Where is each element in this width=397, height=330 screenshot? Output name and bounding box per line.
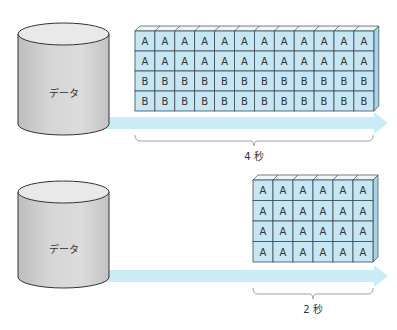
data-block-label: A <box>280 226 287 237</box>
data-block-label: A <box>281 36 288 47</box>
data-block-label: A <box>340 247 347 258</box>
data-block-label: A <box>341 56 348 67</box>
data-block-label: A <box>161 36 168 47</box>
data-block-label: A <box>360 247 367 258</box>
data-block-label: B <box>201 76 208 87</box>
panel-bottom: データ AAAAAAAAAAAAAAAAAAAAAAAA 2 秒 <box>18 175 388 315</box>
data-block-label: A <box>201 56 208 67</box>
data-block-label: B <box>341 76 348 87</box>
data-block-label: A <box>241 36 248 47</box>
data-block-label: A <box>320 206 327 217</box>
data-block-label: A <box>340 185 347 196</box>
data-block-label: A <box>300 226 307 237</box>
data-block-label: B <box>221 76 228 87</box>
data-block-grid: AAAAAAAAAAAAAAAAAAAAAAAABBBBBBBBBBBBBBBB… <box>135 26 379 111</box>
database-cylinder: データ <box>18 23 109 135</box>
data-block-label: A <box>341 36 348 47</box>
data-block-label: B <box>360 96 367 107</box>
data-block-label: A <box>161 56 168 67</box>
data-block-label: A <box>281 56 288 67</box>
duration-bracket <box>253 288 373 299</box>
data-block-label: B <box>341 96 348 107</box>
data-block-label: A <box>360 206 367 217</box>
data-block-label: B <box>221 96 228 107</box>
data-block-label: B <box>321 76 328 87</box>
data-block-label: A <box>321 56 328 67</box>
data-block-grid: AAAAAAAAAAAAAAAAAAAAAAAA <box>253 175 378 262</box>
cylinder-label: データ <box>49 243 79 255</box>
data-block-label: A <box>181 36 188 47</box>
data-transfer-diagram: データ AAAAAAAAAAAAAAAAAAAAAAAABBBBBBBBBBBB… <box>0 0 397 330</box>
data-block-label: A <box>300 185 307 196</box>
data-block-label: A <box>301 36 308 47</box>
data-block-label: A <box>260 185 267 196</box>
data-block-label: B <box>241 76 248 87</box>
cylinder-label: データ <box>49 87 79 99</box>
data-block-label: B <box>161 96 168 107</box>
data-block-label: A <box>142 36 149 47</box>
data-block-label: B <box>321 96 328 107</box>
duration-bracket <box>135 135 373 146</box>
data-block-label: A <box>320 185 327 196</box>
database-cylinder: データ <box>18 181 109 288</box>
data-block-label: A <box>340 206 347 217</box>
data-block-label: A <box>221 36 228 47</box>
data-block-label: A <box>301 56 308 67</box>
data-block-label: A <box>360 185 367 196</box>
data-block-label: A <box>321 36 328 47</box>
data-block-label: A <box>241 56 248 67</box>
data-block-label: B <box>281 76 288 87</box>
data-block-label: B <box>301 96 308 107</box>
data-block-label: B <box>281 96 288 107</box>
data-block-label: A <box>261 36 268 47</box>
data-block-label: B <box>261 76 268 87</box>
data-block-label: A <box>320 247 327 258</box>
data-block-label: A <box>142 56 149 67</box>
data-block-label: B <box>142 96 149 107</box>
data-block-label: B <box>241 96 248 107</box>
data-block-label: A <box>201 36 208 47</box>
data-block-label: B <box>201 96 208 107</box>
data-block-label: A <box>280 185 287 196</box>
data-block-label: A <box>340 226 347 237</box>
data-block-label: A <box>360 226 367 237</box>
data-block-label: A <box>260 247 267 258</box>
duration-label: 2 秒 <box>303 303 323 315</box>
duration-label: 4 秒 <box>244 150 264 162</box>
data-block-label: A <box>260 206 267 217</box>
data-block-label: A <box>261 56 268 67</box>
data-block-label: B <box>161 76 168 87</box>
data-block-label: A <box>280 206 287 217</box>
data-block-label: A <box>280 247 287 258</box>
transfer-arrow <box>100 112 388 134</box>
data-block-label: B <box>261 96 268 107</box>
data-block-label: A <box>221 56 228 67</box>
data-block-label: A <box>360 36 367 47</box>
data-block-label: B <box>360 76 367 87</box>
panel-top: データ AAAAAAAAAAAAAAAAAAAAAAAABBBBBBBBBBBB… <box>18 23 388 162</box>
data-block-label: B <box>181 96 188 107</box>
data-block-label: A <box>260 226 267 237</box>
data-block-label: B <box>301 76 308 87</box>
data-block-label: B <box>181 76 188 87</box>
data-block-label: A <box>181 56 188 67</box>
data-block-label: A <box>300 247 307 258</box>
data-block-label: A <box>320 226 327 237</box>
data-block-label: A <box>300 206 307 217</box>
data-block-label: B <box>142 76 149 87</box>
data-block-label: A <box>360 56 367 67</box>
transfer-arrow <box>100 265 388 287</box>
